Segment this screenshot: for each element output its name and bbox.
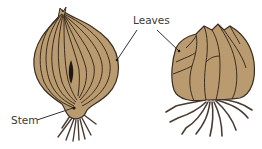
stem-label: Stem [11, 115, 38, 126]
onion-bulb [34, 7, 119, 141]
leaves-label: Leaves [133, 15, 170, 26]
leaves-leader-right [157, 30, 179, 51]
garlic-body [172, 24, 255, 101]
garlic-bulb [166, 24, 254, 136]
leaves-leader-left [117, 30, 137, 60]
bulb-diagram: Leaves Stem [0, 0, 262, 149]
diagram-illustration [0, 0, 262, 149]
